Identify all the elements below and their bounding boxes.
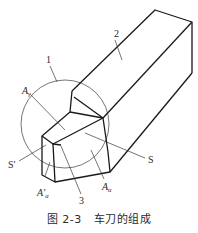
tool-head	[42, 91, 110, 182]
label-minor-cutting-edge: S′	[8, 159, 16, 170]
leader-lines	[19, 40, 145, 194]
label-main-cutting-edge: S	[148, 154, 154, 165]
label-part-1: 1	[46, 54, 51, 65]
label-main-flank: Aα	[101, 181, 112, 193]
label-minor-flank: A′α	[36, 187, 49, 199]
figure-title: 车刀的组成	[94, 213, 152, 226]
label-part-2: 2	[114, 28, 119, 39]
tool-shank	[72, 10, 192, 172]
turning-tool-diagram: 1 2 3 Aγ Aα A′α S S′	[0, 0, 198, 233]
label-rake-face: Aγ	[21, 85, 31, 97]
figure-caption: 图 2-3车刀的组成	[0, 210, 198, 226]
figure-number: 图 2-3	[47, 213, 82, 226]
label-part-3: 3	[79, 195, 84, 206]
